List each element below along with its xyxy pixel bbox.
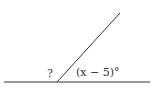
known-angle-label: (x − 5)° (76, 66, 120, 79)
angle-diagram: ? (x − 5)° (0, 0, 153, 87)
unknown-angle-label: ? (47, 67, 53, 80)
